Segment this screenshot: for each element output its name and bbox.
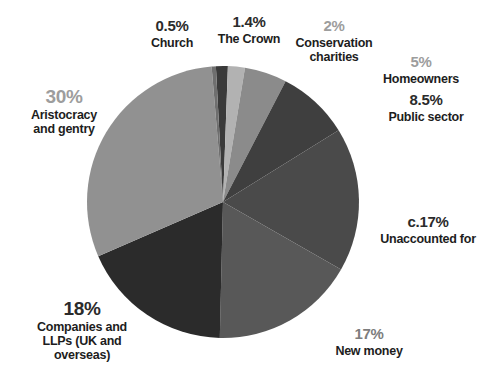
- slice-name-unaccounted-for: Unaccounted for: [366, 232, 490, 246]
- slice-value-new-money: 17%: [314, 326, 424, 343]
- slice-value-public-sector: 8.5%: [366, 92, 486, 109]
- slice-name-homeowners: Homeowners: [366, 72, 476, 86]
- slice-value-church: 0.5%: [132, 18, 212, 35]
- slice-name-public-sector: Public sector: [366, 110, 486, 124]
- slice-name-companies-llps-line3: overseas): [16, 348, 148, 362]
- slice-name-conservation-charities-line1: Conservation: [280, 36, 388, 50]
- slice-value-conservation-charities: 2%: [280, 18, 388, 35]
- slice-name-aristocracy-and-gentry-line2: and gentry: [6, 122, 122, 136]
- pie-chart: 0.5% Church 1.4% The Crown 2% Conservati…: [0, 0, 496, 385]
- slice-name-companies-llps-line2: LLPs (UK and: [16, 334, 148, 348]
- slice-name-companies-llps-line1: Companies and: [16, 320, 148, 334]
- slice-value-homeowners: 5%: [366, 54, 476, 71]
- slice-label-unaccounted-for: c.17% Unaccounted for: [366, 214, 490, 246]
- slice-value-companies-llps: 18%: [16, 298, 148, 319]
- slice-name-aristocracy-and-gentry-line1: Aristocracy: [6, 108, 122, 122]
- slice-name-new-money: New money: [314, 344, 424, 358]
- slice-label-aristocracy-and-gentry: 30% Aristocracy and gentry: [6, 86, 122, 136]
- slice-label-public-sector: 8.5% Public sector: [366, 92, 486, 124]
- slice-value-aristocracy-and-gentry: 30%: [6, 86, 122, 107]
- slice-value-unaccounted-for: c.17%: [366, 214, 490, 231]
- slice-name-church: Church: [132, 36, 212, 50]
- slice-label-church: 0.5% Church: [132, 18, 212, 50]
- slice-label-new-money: 17% New money: [314, 326, 424, 358]
- slice-label-companies-llps: 18% Companies and LLPs (UK and overseas): [16, 298, 148, 362]
- slice-label-homeowners: 5% Homeowners: [366, 54, 476, 86]
